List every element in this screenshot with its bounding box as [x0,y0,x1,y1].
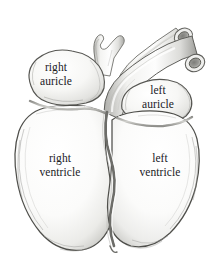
label-left-auricle-line1: left [124,84,192,98]
label-right-ventricle: right ventricle [18,152,102,179]
label-right-ventricle-line2: ventricle [18,166,102,180]
label-right-auricle-line1: right [20,61,92,75]
label-left-ventricle: left ventricle [120,152,200,179]
label-left-auricle-line2: auricle [124,98,192,112]
label-right-auricle-line2: auricle [20,75,92,89]
heart-illustration [0,0,218,269]
label-left-auricle: left auricle [124,84,192,111]
label-left-ventricle-line2: ventricle [120,166,200,180]
label-right-ventricle-line1: right [18,152,102,166]
label-right-auricle: right auricle [20,61,92,88]
heart-diagram: right auricle left auricle right ventric… [0,0,218,269]
label-left-ventricle-line1: left [120,152,200,166]
